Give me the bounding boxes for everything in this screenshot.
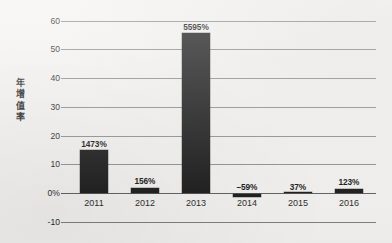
bar-chart: 年 增 值 率 60 50 40 30 20 10 0% -10 1473% 1… [0, 0, 392, 243]
y-tick-label-0: 0% [20, 188, 60, 198]
y-tick-label-50: 50 [20, 44, 60, 54]
y-tick-label-minus-10: -10 [20, 217, 60, 227]
x-tick-label-2011: 2011 [69, 198, 119, 208]
bar-value-label-2014: –59% [222, 182, 272, 192]
x-tick-label-2016: 2016 [324, 198, 374, 208]
y-tick-label-20: 20 [20, 131, 60, 141]
y-tick-label-30: 30 [20, 102, 60, 112]
bar-value-label-2016: 123% [324, 177, 374, 187]
bar-2012[interactable] [131, 188, 159, 193]
y-tick-label-40: 40 [20, 73, 60, 83]
y-axis-label-char-2: 增 [13, 89, 27, 100]
bar-value-label-2011: 1473% [69, 139, 119, 149]
gridline-40 [61, 78, 376, 79]
bar-2011[interactable] [80, 150, 108, 193]
bar-value-label-2013: 5595% [171, 22, 221, 32]
y-axis-label: 年 增 值 率 [13, 78, 27, 123]
y-tick-label-10: 10 [20, 159, 60, 169]
gridline-50 [61, 49, 376, 50]
x-tick-label-2014: 2014 [222, 198, 272, 208]
bar-value-label-2015: 37% [273, 182, 323, 192]
x-tick-label-2015: 2015 [273, 198, 323, 208]
chart-screenshot: 年 增 值 率 60 50 40 30 20 10 0% -10 1473% 1… [0, 0, 392, 243]
gridline-20 [61, 136, 376, 137]
bar-2014[interactable] [233, 194, 261, 197]
bar-2016[interactable] [335, 189, 363, 193]
y-axis-label-char-4: 率 [13, 112, 27, 123]
gridline-minus-10 [61, 222, 376, 223]
x-tick-label-2013: 2013 [171, 198, 221, 208]
gridline-zero [61, 193, 376, 194]
bar-2013[interactable] [182, 33, 210, 193]
bar-value-label-2012: 156% [120, 176, 170, 186]
x-tick-label-2012: 2012 [120, 198, 170, 208]
gridline-10 [61, 164, 376, 165]
gridline-30 [61, 107, 376, 108]
y-tick-label-60: 60 [20, 16, 60, 26]
